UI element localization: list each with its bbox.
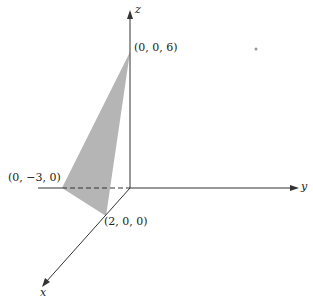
y-axis-label: y (301, 180, 307, 193)
plane-triangle (62, 52, 130, 216)
z-axis-label: z (135, 3, 141, 16)
point-label-z-intercept: (0, 0, 6) (134, 41, 178, 54)
y-axis-arrow-icon (290, 185, 299, 191)
speck-dot (255, 48, 258, 51)
x-axis-label: x (40, 286, 46, 299)
z-axis-arrow-icon (127, 10, 133, 19)
point-label-x-intercept: (2, 0, 0) (104, 215, 148, 228)
point-label-y-intercept: (0, −3, 0) (8, 171, 61, 184)
